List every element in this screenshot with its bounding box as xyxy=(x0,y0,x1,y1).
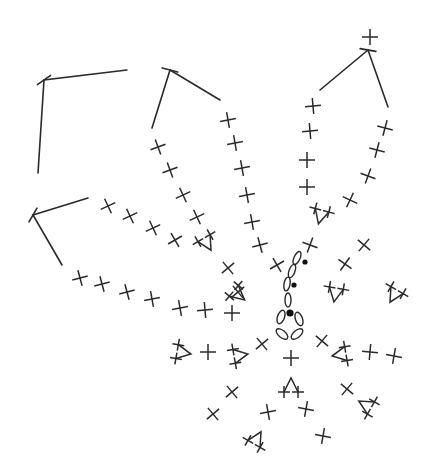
increase-icon xyxy=(352,390,382,423)
single-crochet-icon xyxy=(171,299,190,318)
single-crochet-icon xyxy=(361,343,378,360)
single-crochet-icon xyxy=(283,350,299,366)
single-crochet-icon xyxy=(299,179,315,195)
chain-icon xyxy=(287,263,297,278)
single-crochet-icon xyxy=(297,400,316,419)
single-crochet-icon xyxy=(385,347,404,366)
single-crochet-icon xyxy=(243,213,262,232)
single-crochet-icon xyxy=(266,254,288,276)
increase-icon xyxy=(278,378,304,398)
chain-icon xyxy=(275,309,286,325)
single-crochet-icon xyxy=(142,217,163,238)
single-crochet-icon xyxy=(259,403,278,422)
chain-icon xyxy=(291,250,302,265)
single-crochet-icon xyxy=(226,134,245,153)
chain-stitches xyxy=(283,250,303,307)
single-crochet-icon xyxy=(227,281,250,304)
chain-loop-line xyxy=(152,70,220,128)
single-crochet-icon xyxy=(97,195,118,216)
increase-icon xyxy=(169,338,193,367)
single-crochet-icon xyxy=(358,166,379,187)
single-crochet-icon xyxy=(172,184,193,205)
single-crochet-icon xyxy=(217,257,240,280)
single-crochet-icon xyxy=(70,268,90,288)
single-crochet-icon xyxy=(233,159,252,178)
chain-loop-line xyxy=(320,50,388,107)
single-crochet-icon xyxy=(202,403,225,426)
single-crochet-icon xyxy=(224,305,240,321)
chain-icon xyxy=(289,327,304,341)
single-crochet-icon xyxy=(238,186,257,205)
slip-stitch-icon xyxy=(302,259,307,264)
single-crochet-icon xyxy=(362,29,378,45)
single-crochet-icon xyxy=(143,290,162,309)
single-crochet-icon xyxy=(250,235,270,255)
increase-icon xyxy=(306,201,336,227)
slip-stitch-icon xyxy=(286,309,293,316)
increase-icon xyxy=(321,280,350,304)
single-crochet-icon xyxy=(299,152,315,168)
increase-stitches xyxy=(169,201,411,456)
slip-stitch-icon xyxy=(291,282,296,287)
single-crochet-icon xyxy=(334,253,356,275)
single-crochet-icon xyxy=(336,378,359,401)
single-crochet-icon xyxy=(353,234,376,257)
single-crochet-icon xyxy=(164,229,186,251)
increase-icon xyxy=(226,341,250,370)
single-crochet-icon xyxy=(375,118,395,138)
single-crochet-icon xyxy=(304,97,321,114)
chain-loop-line xyxy=(38,70,127,173)
single-crochet-icon xyxy=(301,122,318,139)
increase-icon xyxy=(190,226,223,256)
single-crochet-icon xyxy=(221,381,244,404)
single-crochet-icon xyxy=(367,140,387,160)
single-crochet-icon xyxy=(311,330,334,353)
chain-icon xyxy=(293,311,304,327)
chain-icon xyxy=(274,327,289,341)
crochet-chart xyxy=(0,0,434,473)
single-crochet-icon xyxy=(148,137,169,158)
single-crochet-icon xyxy=(300,235,321,256)
single-crochet-stitches xyxy=(70,29,403,445)
single-crochet-icon xyxy=(314,427,333,446)
single-crochet-icon xyxy=(119,205,140,226)
single-crochet-icon xyxy=(186,206,207,227)
single-crochet-icon xyxy=(251,333,274,356)
single-crochet-icon xyxy=(117,282,137,302)
increase-icon xyxy=(379,278,412,308)
single-crochet-icon xyxy=(92,274,112,294)
single-crochet-icon xyxy=(339,189,360,210)
single-crochet-icon xyxy=(200,344,216,360)
chain-icon xyxy=(283,277,291,292)
chain-loop-line xyxy=(33,198,88,265)
increase-icon xyxy=(240,425,273,455)
increase-icon xyxy=(330,340,354,369)
single-crochet-icon xyxy=(160,160,181,181)
single-crochet-icon xyxy=(196,301,213,318)
single-crochet-icon xyxy=(219,111,238,130)
chain-icon xyxy=(285,293,291,307)
